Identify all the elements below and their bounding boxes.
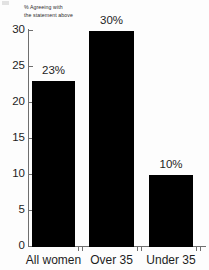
bar <box>149 175 193 247</box>
x-axis-tick-mark <box>78 247 79 251</box>
bar <box>32 81 75 247</box>
x-axis-tick-mark <box>141 247 142 251</box>
bar-chart-figure: % Agreeing with the statement above 0510… <box>0 0 209 270</box>
bar-value-label: 10% <box>141 159 201 171</box>
bar-value-label: 23% <box>24 65 83 77</box>
x-axis-category-label: Under 35 <box>135 254 207 267</box>
x-axis-tick-mark <box>196 247 197 251</box>
bar <box>89 31 134 247</box>
x-axis-tick-mark <box>82 247 83 251</box>
x-axis-tick-mark <box>137 247 138 251</box>
x-axis-tick-mark <box>200 247 201 251</box>
bars-layer <box>0 0 209 247</box>
bar-value-label: 30% <box>81 15 142 27</box>
